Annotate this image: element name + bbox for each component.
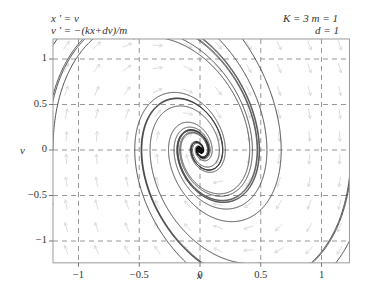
trajectory-curve [53,14,260,202]
y-tick-label: 1 [7,52,47,63]
x-tick-label: 1 [302,269,342,280]
y-tick-label: −1 [7,234,47,245]
trajectory-curve [141,98,349,283]
x-tick-label: −0.5 [119,269,159,280]
x-tick-label: 0.5 [241,269,281,280]
y-tick-label: 0 [7,143,47,154]
y-axis-label: v [20,145,25,156]
phase-portrait-plot [0,0,367,301]
trajectory-curve [142,99,309,283]
y-tick-label: 0.5 [7,98,47,109]
trajectory-curve [91,19,258,201]
equilibrium-point [197,147,203,153]
x-axis-label: x [197,270,202,281]
x-tick-label: −1 [59,269,99,280]
y-tick-label: −0.5 [7,189,47,200]
trajectory-curve [180,39,253,196]
